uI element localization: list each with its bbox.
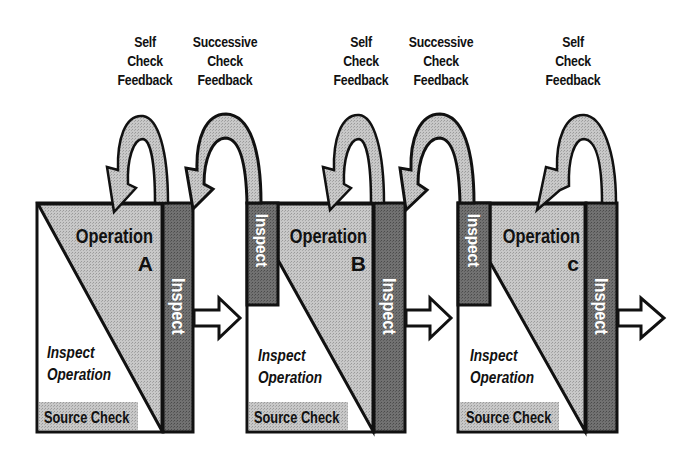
source-check-label-b: Source Check <box>254 409 340 427</box>
successive-check-feedback-arrow-b-to-c <box>400 114 474 210</box>
operation-letter-b: B <box>351 252 366 275</box>
successive-check-feedback-label-b: Successive Check Feedback <box>400 32 482 89</box>
self-inspect-label-c: Inspect <box>591 278 611 335</box>
self-check-feedback-label-c: Self Check Feedback <box>536 32 610 89</box>
self-inspect-label-b: Inspect <box>379 278 399 335</box>
self-check-feedback-arrow-b <box>323 115 384 210</box>
source-check-label-a: Source Check <box>44 409 130 427</box>
inspect-operation-line1-c: Inspect <box>470 347 519 364</box>
self-check-feedback-label-a: Self Check Feedback <box>108 32 182 89</box>
operation-label-a: Operation <box>76 224 153 247</box>
self-check-feedback-arrow-c-shape <box>537 115 616 210</box>
inspect-operation-line2-b: Operation <box>258 369 322 386</box>
station-b: Operation B Inspect Operation Source Che… <box>247 203 451 432</box>
successive-inspect-label-c: Inspect <box>465 214 484 268</box>
inspect-operation-line1-b: Inspect <box>258 347 307 364</box>
operation-label-c: Operation <box>503 224 580 247</box>
inspect-operation-line2-c: Operation <box>470 369 534 386</box>
station-c: Operation c Inspect Operation Source Che… <box>458 203 664 432</box>
inspect-operation-line1-a: Inspect <box>47 344 96 361</box>
output-arrow-c <box>618 298 664 338</box>
source-check-label-c: Source Check <box>466 409 552 427</box>
operation-letter-a: A <box>138 252 153 275</box>
output-arrow-a <box>194 298 240 338</box>
operation-label-b: Operation <box>290 224 367 247</box>
operation-letter-c: c <box>567 252 579 275</box>
self-check-feedback-label-b: Self Check Feedback <box>324 32 398 89</box>
successive-check-feedback-label-a: Successive Check Feedback <box>184 32 266 89</box>
output-arrow-b <box>406 298 451 338</box>
inspect-operation-line2-a: Operation <box>47 366 111 383</box>
successive-check-feedback-arrow-a-to-b <box>186 114 261 209</box>
station-a: Operation A Inspect Operation Source Che… <box>37 203 240 432</box>
self-check-feedback-arrow-a <box>107 116 168 212</box>
successive-inspect-label-b: Inspect <box>253 214 272 268</box>
self-inspect-label-a: Inspect <box>168 278 188 335</box>
